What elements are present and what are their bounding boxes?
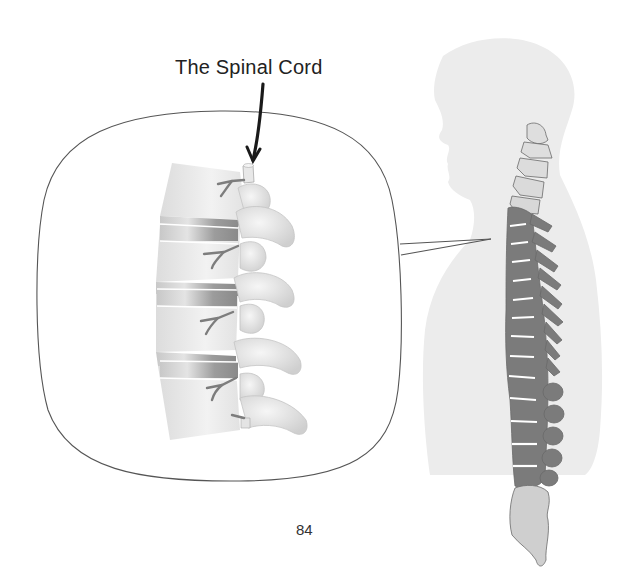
spinal-cord-diagram: The Spinal Cord 84	[0, 0, 620, 573]
spinal-cord-label: The Spinal Cord	[175, 56, 323, 79]
diagram-artwork	[0, 0, 620, 573]
page-number: 84	[296, 521, 313, 538]
pointer-arrow	[247, 84, 263, 161]
lumbar-vertebrae-closeup	[156, 163, 307, 440]
